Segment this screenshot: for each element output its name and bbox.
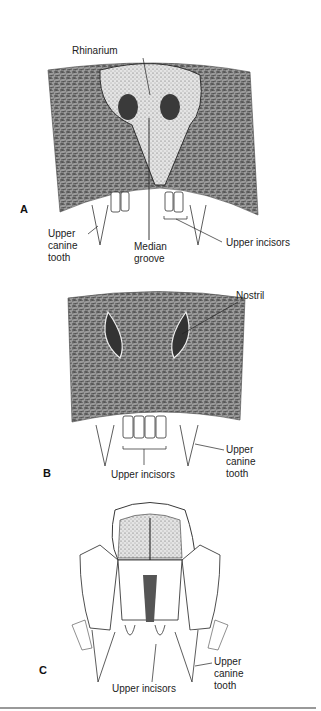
panel-label-a: A	[20, 203, 28, 215]
label-a-upper-canine: Upper canine tooth	[48, 228, 77, 264]
bottom-rule	[0, 707, 316, 709]
label-c-upper-incisors: Upper incisors	[112, 683, 176, 695]
panel-a-snout	[48, 58, 258, 245]
label-b-upper-incisors: Upper incisors	[111, 469, 175, 481]
label-median-groove: Median groove	[134, 241, 167, 265]
panel-label-c: C	[39, 664, 47, 676]
panel-c-skull	[72, 503, 228, 683]
figure-illustration	[0, 0, 321, 711]
label-c-upper-canine: Upper canine tooth	[214, 656, 243, 692]
label-nostril: Nostril	[236, 290, 264, 302]
label-a-upper-incisors: Upper incisors	[226, 237, 290, 249]
label-b-upper-canine: Upper canine tooth	[226, 444, 255, 480]
panel-label-b: B	[43, 467, 51, 479]
panel-b-snout	[68, 292, 245, 467]
label-rhinarium: Rhinarium	[72, 45, 118, 57]
